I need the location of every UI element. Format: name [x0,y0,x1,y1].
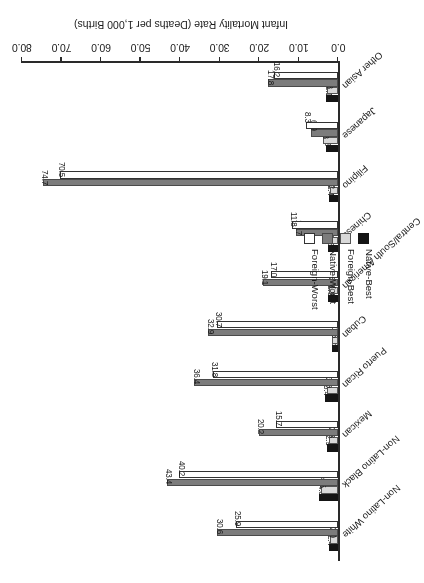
bar-value-label: 11.8 [289,212,298,227]
bar [274,72,338,79]
bar [43,179,338,186]
bar-value-label: 30.7 [215,312,224,327]
value-axis-tick-label: 40.0 [158,42,202,54]
bar-group: 2.92.320.215.7 [22,421,338,452]
value-axis-tick [337,57,338,63]
bar-value-label: 16.2 [272,62,281,77]
value-axis-tick [100,57,101,63]
bar-group: 2.42.030.625.9 [22,521,338,552]
bar-value-label: 15.7 [274,411,283,426]
legend-swatch-icon [358,233,369,244]
bar [179,471,338,478]
bar-group: 3.12.817.816.2 [22,72,338,103]
bar [276,421,338,428]
bar [268,79,338,86]
value-axis-tick-label: 0.0 [316,42,360,54]
bar-value-label: 30.6 [215,519,224,534]
legend-swatch-icon [322,233,333,244]
legend-item-label: Native-Worst [328,249,339,304]
value-axis-tick-label: 20.0 [237,42,281,54]
category-axis-label: Non-Latino White [341,445,424,540]
value-axis-tick-label: 70.0 [40,42,84,54]
bar-value-label: 36.4 [192,369,201,384]
bar-group: 3.43.036.431.8 [22,371,338,402]
bar-value-label: 20.2 [256,419,265,434]
bar-group: 3.23.86.98.3 [22,122,338,153]
bar-value-label: 17.0 [269,262,278,277]
bar-value-label: 40.2 [177,461,186,476]
bar-value-label: 25.9 [233,511,242,526]
chart-legend: Native-BestForeign-BestNative-WorstForei… [290,233,370,365]
bar-value-label: 43.4 [164,469,173,484]
value-axis-tick [21,57,22,63]
bar [326,145,339,152]
bar [213,371,339,378]
value-axis-tick-label: 50.0 [119,42,163,54]
legend-swatch-icon [340,233,351,244]
value-axis-tick-label: 30.0 [198,42,242,54]
bar-value-label: 8.3 [303,112,312,123]
bar [60,171,339,178]
legend-item-label: Foreign-Worst [310,249,321,310]
bar [292,221,339,228]
value-axis-tick [60,57,61,63]
value-axis-tick [219,57,220,63]
bar-value-label: 70.5 [57,162,66,177]
value-axis-tick [139,57,140,63]
bar [194,379,338,386]
bar-value-label: 31.8 [210,362,219,377]
value-axis-tick [258,57,259,63]
value-axis-line [22,61,340,63]
value-axis-tick-label: 80.0 [0,42,44,54]
bar [217,529,338,536]
bar [236,521,338,528]
bar [167,479,339,486]
value-axis-tick-label: 10.0 [277,42,321,54]
value-axis-title: Infant Mortality Rate (Deaths per 1,000 … [22,19,340,31]
bar-group: 4.84.543.440.2 [22,471,338,502]
bar-value-label: 74.7 [40,170,49,185]
value-axis-tick [179,57,180,63]
value-axis-tick-label: 60.0 [79,42,123,54]
legend-item-label: Foreign-Best [346,249,357,304]
value-axis-tick [298,57,299,63]
bar [259,429,339,436]
legend-swatch-icon [304,233,315,244]
bar-group: 2.42.274.770.5 [22,171,338,202]
legend-item-label: Native-Best [364,249,375,299]
